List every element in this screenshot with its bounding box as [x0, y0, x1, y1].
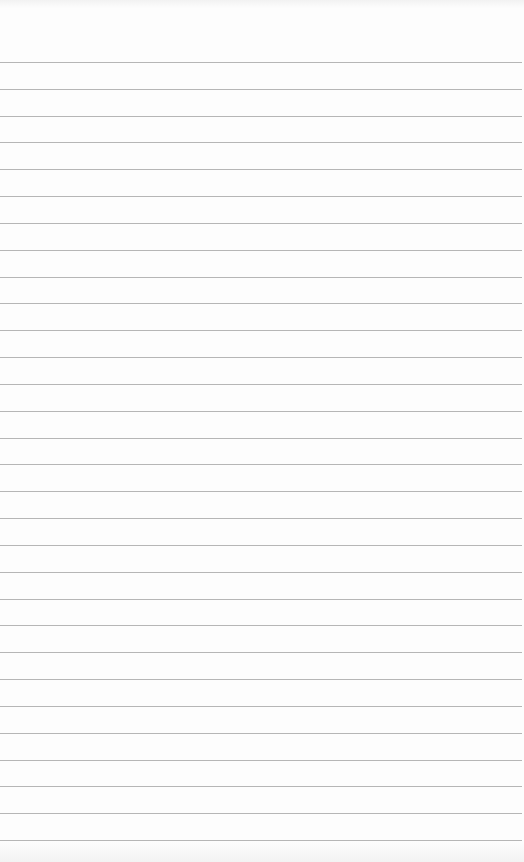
- rule-line: [0, 786, 522, 787]
- rule-line: [0, 491, 522, 492]
- rule-line: [0, 652, 522, 653]
- rule-line: [0, 411, 522, 412]
- rule-line: [0, 223, 522, 224]
- rule-line: [0, 464, 522, 465]
- paper-top-edge: [0, 0, 524, 8]
- rule-line: [0, 116, 522, 117]
- rule-line: [0, 277, 522, 278]
- rule-line: [0, 438, 522, 439]
- rule-line: [0, 89, 522, 90]
- rule-line: [0, 840, 522, 841]
- paper-bottom-edge: [0, 842, 524, 862]
- rule-line: [0, 679, 522, 680]
- rule-line: [0, 518, 522, 519]
- rule-line: [0, 330, 522, 331]
- ruled-paper: [0, 0, 524, 862]
- rule-line: [0, 572, 522, 573]
- rule-line: [0, 733, 522, 734]
- rule-line: [0, 250, 522, 251]
- rule-line: [0, 196, 522, 197]
- rule-line: [0, 599, 522, 600]
- rule-line: [0, 142, 522, 143]
- rule-line: [0, 384, 522, 385]
- rule-line: [0, 545, 522, 546]
- rule-line: [0, 357, 522, 358]
- rule-line: [0, 625, 522, 626]
- rule-line: [0, 303, 522, 304]
- rule-line: [0, 62, 522, 63]
- rule-line: [0, 813, 522, 814]
- rule-line: [0, 169, 522, 170]
- rule-line: [0, 760, 522, 761]
- rule-line: [0, 706, 522, 707]
